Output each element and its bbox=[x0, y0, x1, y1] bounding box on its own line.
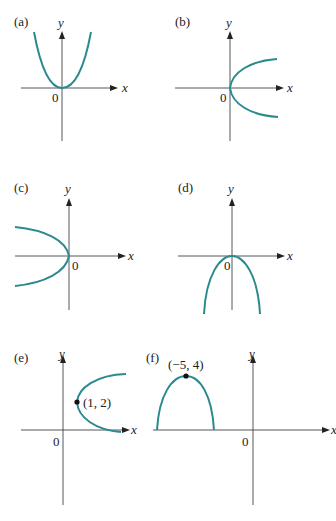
origin-label: 0 bbox=[242, 434, 249, 449]
vertex-label: (−5, 4) bbox=[168, 357, 204, 372]
curve bbox=[157, 376, 214, 430]
panel-label: (b) bbox=[175, 14, 190, 29]
curve bbox=[34, 32, 91, 88]
panel-label: (d) bbox=[178, 180, 193, 195]
origin-label: 0 bbox=[72, 258, 79, 273]
x-axis-label: x bbox=[286, 80, 293, 95]
x-axis-label: x bbox=[330, 422, 336, 437]
vertex-point bbox=[74, 399, 79, 404]
x-axis-label: x bbox=[286, 248, 293, 263]
panel-label: (f) bbox=[146, 350, 159, 365]
y-axis-label: y bbox=[57, 346, 65, 361]
vertex-point bbox=[183, 373, 188, 378]
x-axis-label: x bbox=[127, 248, 134, 263]
panel-f: (f) x y 0 (−5, 4) bbox=[146, 346, 336, 505]
parabola-figure: (a) x y 0 (b) x y 0 (c) x y 0 (d) bbox=[0, 0, 336, 521]
x-axis-label: x bbox=[121, 80, 128, 95]
panel-e: (e) x y 0 (1, 2) bbox=[14, 346, 137, 505]
curve bbox=[15, 227, 69, 286]
panel-label: (c) bbox=[14, 180, 28, 195]
y-axis-label: y bbox=[226, 181, 234, 196]
origin-label: 0 bbox=[52, 90, 59, 105]
y-axis-label: y bbox=[247, 346, 255, 361]
origin-label: 0 bbox=[53, 434, 60, 449]
y-axis-arrow-icon bbox=[229, 198, 235, 206]
panel-label: (e) bbox=[14, 350, 28, 365]
y-axis-label: y bbox=[224, 15, 232, 30]
x-axis-label: x bbox=[130, 422, 137, 437]
panel-b: (b) x y 0 bbox=[175, 14, 293, 141]
x-axis-arrow-icon bbox=[118, 253, 126, 259]
panel-a: (a) x y 0 bbox=[14, 14, 128, 141]
x-axis-arrow-icon bbox=[276, 85, 284, 91]
panel-d: (d) x y 0 bbox=[178, 180, 293, 314]
y-axis-arrow-icon bbox=[227, 31, 233, 39]
x-axis-arrow-icon bbox=[122, 427, 130, 433]
y-axis-arrow-icon bbox=[59, 31, 65, 39]
y-axis-label: y bbox=[56, 15, 64, 30]
panel-label: (a) bbox=[14, 14, 28, 29]
x-axis-arrow-icon bbox=[322, 427, 330, 433]
y-axis-label: y bbox=[63, 181, 71, 196]
origin-label: 0 bbox=[220, 90, 227, 105]
vertex-label: (1, 2) bbox=[83, 395, 111, 410]
origin-label: 0 bbox=[224, 258, 231, 273]
panel-c: (c) x y 0 bbox=[14, 180, 134, 310]
x-axis-arrow-icon bbox=[110, 85, 118, 91]
x-axis-arrow-icon bbox=[277, 253, 285, 259]
y-axis-arrow-icon bbox=[66, 198, 72, 206]
